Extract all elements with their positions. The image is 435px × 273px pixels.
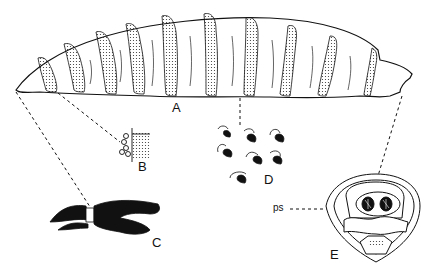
label-E: E (330, 248, 339, 261)
cephalopharyngeal-skeleton-C (50, 200, 160, 234)
anterior-spiracle-B (120, 128, 151, 162)
larva-body (16, 14, 412, 98)
label-A: A (172, 101, 181, 114)
larva-illustration (0, 0, 435, 273)
body-spines-D (218, 126, 284, 183)
label-D: D (264, 173, 273, 186)
label-ps: ps (273, 203, 284, 213)
label-C: C (152, 236, 161, 249)
larva-figure: A B C D E ps (0, 0, 435, 273)
posterior-end-E (326, 174, 420, 262)
label-B: B (138, 160, 147, 173)
